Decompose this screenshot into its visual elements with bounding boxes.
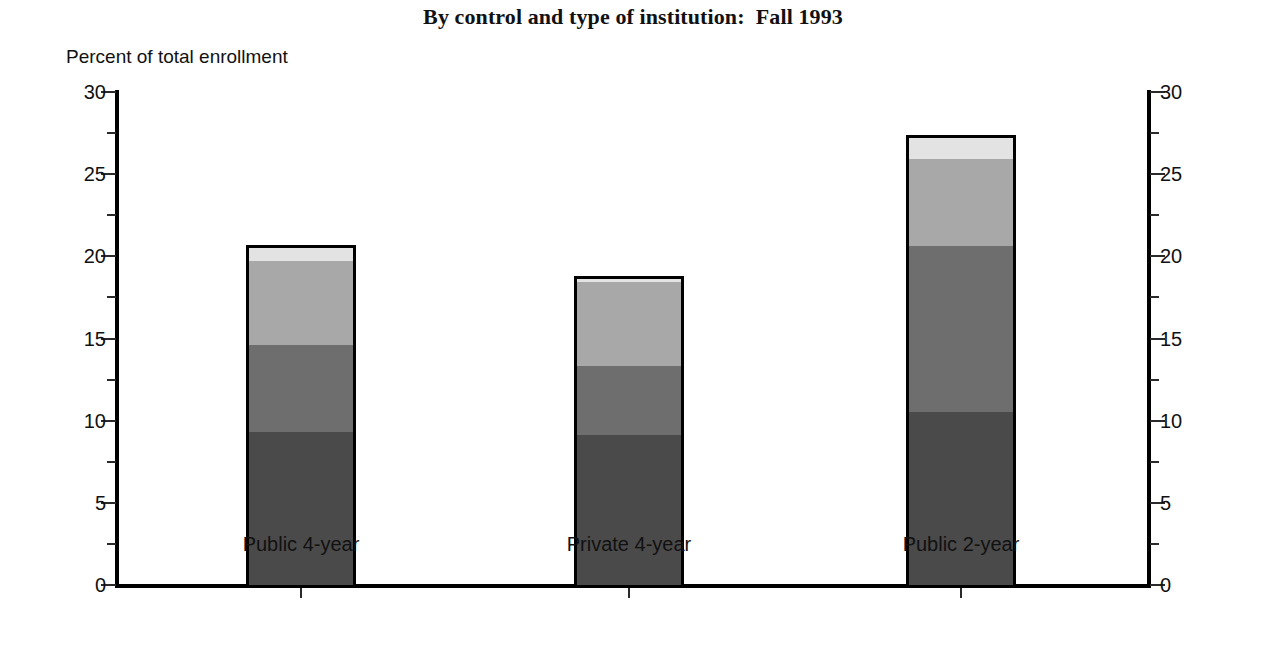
x-axis-category-tick [960,587,962,598]
bar-segment[interactable] [246,342,356,432]
x-axis-category-tick [300,587,302,598]
y-axis-right-tick-minor [1150,543,1159,545]
bar-segment[interactable] [246,258,356,345]
bar-segment[interactable] [574,279,684,366]
stacked-bar[interactable] [906,92,1016,585]
plot-area: 005510101515202025253030 [118,92,1148,585]
y-axis-left-tick-minor [107,543,116,545]
bar-segment[interactable] [574,276,684,282]
y-axis-right-tick-minor [1150,132,1159,134]
y-axis-left-tick-label: 5 [66,493,106,513]
y-axis-left-tick-label: 0 [66,575,106,595]
y-axis-right-tick-label: 30 [1160,82,1206,102]
bar-segment[interactable] [574,363,684,435]
bar-segment[interactable] [574,432,684,588]
y-axis-left-tick-label: 25 [66,164,106,184]
stacked-bar[interactable] [574,92,684,585]
y-axis-left-tick-minor [107,379,116,381]
bar-segment[interactable] [906,135,1016,159]
page-title: By control and type of institution: Fall… [0,4,1266,30]
bar-group[interactable] [906,92,1016,585]
y-axis-left-tick-minor [107,461,116,463]
y-axis-right-tick-minor [1150,379,1159,381]
y-axis-left-tick-label: 10 [66,411,106,431]
y-axis-title: Percent of total enrollment [66,46,288,68]
y-axis-left-tick-label: 15 [66,329,106,349]
y-axis-right-tick-label: 15 [1160,329,1206,349]
y-axis-right-tick-label: 5 [1160,493,1206,513]
x-axis-category-label: Public 2-year [851,533,1071,556]
y-axis-left-tick-minor [107,214,116,216]
x-axis-category-label: Public 4-year [191,533,411,556]
y-axis-right-tick-label: 0 [1160,575,1206,595]
y-axis-right-tick-minor [1150,461,1159,463]
bar-group[interactable] [246,92,356,585]
bar-segment[interactable] [906,243,1016,412]
bar-segment[interactable] [906,409,1016,588]
y-axis-right-tick-label: 20 [1160,246,1206,266]
bar-segment[interactable] [246,245,356,261]
y-axis-left-tick-label: 30 [66,82,106,102]
bar-segment[interactable] [246,429,356,588]
y-axis-left-tick-label: 20 [66,246,106,266]
y-axis-right-tick-label: 25 [1160,164,1206,184]
x-axis-category-label: Private 4-year [519,533,739,556]
bar-group[interactable] [574,92,684,585]
bar-segment[interactable] [906,156,1016,246]
y-axis-left-tick-minor [107,296,116,298]
stacked-bar[interactable] [246,92,356,585]
x-axis-category-tick [628,587,630,598]
y-axis-right-tick-minor [1150,296,1159,298]
y-axis-left-tick-minor [107,132,116,134]
y-axis-right-tick-label: 10 [1160,411,1206,431]
y-axis-right-tick-minor [1150,214,1159,216]
